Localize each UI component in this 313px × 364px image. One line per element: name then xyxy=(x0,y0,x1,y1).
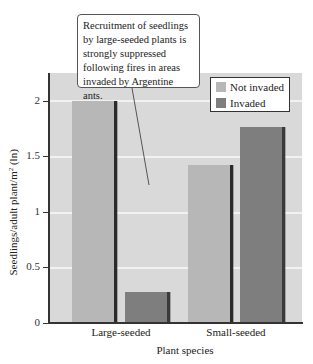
bar-small-seeded-invaded xyxy=(240,127,285,323)
legend-item-invaded: Invaded xyxy=(216,97,265,109)
legend-label: Invaded xyxy=(230,97,265,109)
ytick-label: 2 xyxy=(6,94,40,106)
bar-large-seeded-not-invaded xyxy=(72,101,117,323)
x-axis-line xyxy=(48,322,303,324)
callout-line-2: by large-seeded plants is xyxy=(83,33,194,47)
bar-large-seeded-invaded xyxy=(125,292,170,323)
ytick-mark xyxy=(43,212,49,213)
y-axis-title-sup: 2 xyxy=(7,168,15,172)
y-axis-title-main: Seedlings/adult plant/m xyxy=(7,171,19,275)
ytick-mark xyxy=(43,267,49,268)
callout-line-5: invaded by Argentine ants. xyxy=(83,75,194,103)
ytick-mark xyxy=(43,156,49,157)
y-axis-line xyxy=(48,73,50,324)
y-axis-title-suffix: (ln) xyxy=(7,149,19,168)
ytick-mark xyxy=(43,323,49,324)
category-label-small-seeded: Small-seeded xyxy=(186,326,286,338)
callout-line-1: Recruitment of seedlings xyxy=(83,19,194,33)
legend-swatch-invaded xyxy=(216,98,226,108)
legend-swatch-not-invaded xyxy=(216,82,226,92)
callout-annotation: Recruitment of seedlings by large-seeded… xyxy=(77,14,200,88)
category-label-large-seeded: Large-seeded xyxy=(71,326,171,338)
legend-item-not-invaded: Not invaded xyxy=(216,81,284,93)
ytick-label: 0 xyxy=(6,316,40,328)
legend-label: Not invaded xyxy=(230,81,284,93)
y-axis-title: Seedlings/adult plant/m2 (ln) xyxy=(7,127,20,297)
legend: Not invaded Invaded xyxy=(210,77,290,112)
bar-small-seeded-not-invaded xyxy=(188,165,233,323)
callout-line-3: strongly suppressed xyxy=(83,47,194,61)
callout-line-4: following fires in areas xyxy=(83,61,194,75)
x-axis-title: Plant species xyxy=(135,344,235,356)
ytick-mark xyxy=(43,101,49,102)
